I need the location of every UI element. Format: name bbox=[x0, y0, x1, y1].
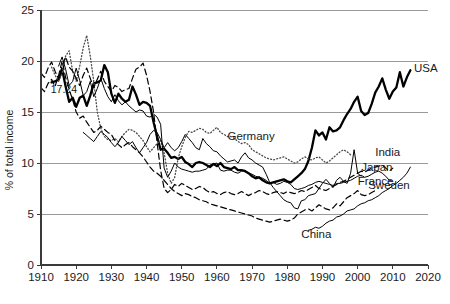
series-line-india bbox=[83, 130, 361, 209]
series-label-china: China bbox=[301, 228, 332, 240]
x-tick-label-1920: 1920 bbox=[63, 271, 89, 283]
x-tick-label-2020: 2020 bbox=[415, 271, 441, 283]
annotation-0: 17.24 bbox=[51, 83, 77, 95]
y-tick-label-10: 10 bbox=[21, 157, 34, 169]
x-tick-label-1990: 1990 bbox=[310, 271, 336, 283]
series-label-usa: USA bbox=[414, 62, 438, 74]
series-label-japan: Japan bbox=[361, 161, 392, 173]
x-tick-label-1970: 1970 bbox=[239, 271, 265, 283]
y-tick-label-5: 5 bbox=[28, 208, 34, 220]
series-label-india: India bbox=[375, 146, 401, 158]
x-tick-labels-group: 1910192019301940195019601970198019902000… bbox=[28, 271, 441, 283]
x-tick-label-1960: 1960 bbox=[204, 271, 230, 283]
series-paths-group bbox=[41, 36, 410, 231]
x-tick-label-2010: 2010 bbox=[380, 271, 406, 283]
x-tick-label-1930: 1930 bbox=[99, 271, 125, 283]
y-axis-title: % of total income bbox=[3, 110, 15, 191]
y-tick-label-20: 20 bbox=[21, 55, 34, 67]
x-tick-label-1950: 1950 bbox=[169, 271, 195, 283]
chart-svg: 0510152025 19101920193019401950196019701… bbox=[0, 0, 450, 304]
y-tick-label-25: 25 bbox=[21, 4, 34, 16]
series-label-germany: Germany bbox=[227, 130, 275, 142]
x-tick-label-1980: 1980 bbox=[274, 271, 300, 283]
y-tick-label-15: 15 bbox=[21, 106, 34, 118]
series-line-germany bbox=[52, 36, 351, 184]
x-tick-label-2000: 2000 bbox=[345, 271, 371, 283]
x-tick-label-1910: 1910 bbox=[28, 271, 54, 283]
annotations-group: 17.24 bbox=[51, 83, 77, 95]
x-tick-label-1940: 1940 bbox=[134, 271, 160, 283]
y-tick-label-0: 0 bbox=[28, 259, 34, 271]
series-label-sweden: Sweden bbox=[368, 179, 410, 191]
y-tick-labels-group: 0510152025 bbox=[21, 4, 34, 271]
income-share-chart: 0510152025 19101920193019401950196019701… bbox=[0, 0, 450, 304]
